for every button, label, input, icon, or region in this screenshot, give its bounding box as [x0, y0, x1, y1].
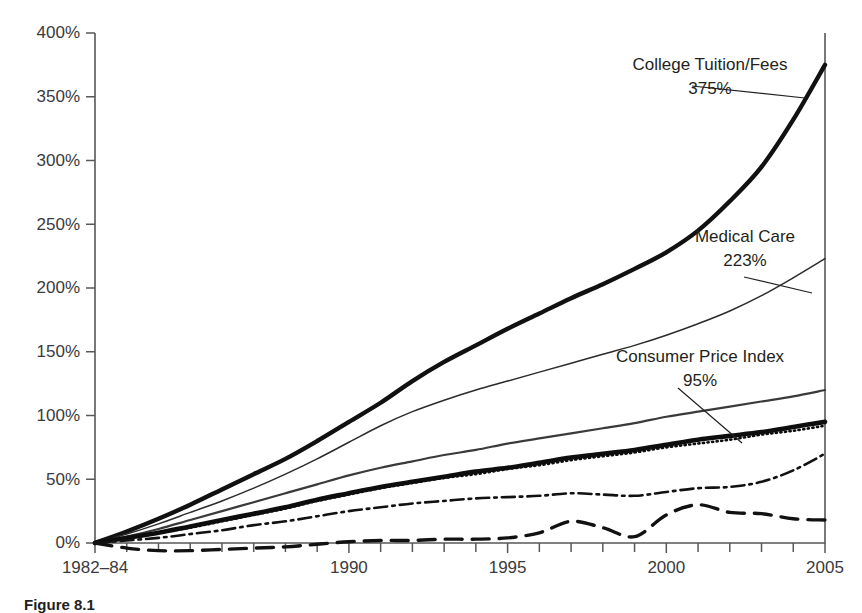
- y-tick-label: 150%: [37, 342, 80, 361]
- y-tick-label: 300%: [37, 151, 80, 170]
- x-tick-label: 2000: [647, 558, 685, 577]
- chart-axes: [95, 33, 825, 543]
- x-tick-label: 2005: [806, 558, 844, 577]
- figure-caption: Figure 8.1: [24, 596, 95, 613]
- series-college-tuition-fees: [95, 65, 825, 543]
- chart-series-group: [95, 65, 825, 551]
- chart-annotations: College Tuition/Fees375%Medical Care223%…: [616, 55, 812, 443]
- annotation-leader-medical-care: [744, 277, 812, 293]
- x-tick-label: 1995: [489, 558, 527, 577]
- annotation-label-medical-care: Medical Care: [695, 227, 795, 246]
- annotation-label-consumer-price-index: Consumer Price Index: [616, 347, 785, 366]
- series-dashed-6: [95, 505, 825, 551]
- annotation-value-consumer-price-index: 95%: [683, 371, 717, 390]
- annotation-leader-consumer-price-index: [678, 388, 742, 443]
- y-tick-label: 400%: [37, 23, 80, 42]
- y-tick-label: 350%: [37, 87, 80, 106]
- x-axis-ticks: 1982–841990199520002005: [62, 543, 844, 577]
- y-tick-label: 0%: [55, 533, 80, 552]
- series-dotted-4: [95, 426, 825, 543]
- x-tick-label: 1982–84: [62, 558, 128, 577]
- y-tick-label: 50%: [46, 470, 80, 489]
- annotation-label-college-tuition-fees: College Tuition/Fees: [633, 55, 788, 74]
- series-medium-solid-2: [95, 390, 825, 543]
- y-axis-ticks: 0%50%100%150%200%250%300%350%400%: [37, 23, 95, 552]
- y-tick-label: 250%: [37, 215, 80, 234]
- y-tick-label: 200%: [37, 278, 80, 297]
- axis-frame: [95, 33, 825, 543]
- x-tick-label: 1990: [330, 558, 368, 577]
- annotation-value-medical-care: 223%: [723, 251, 766, 270]
- y-tick-label: 100%: [37, 406, 80, 425]
